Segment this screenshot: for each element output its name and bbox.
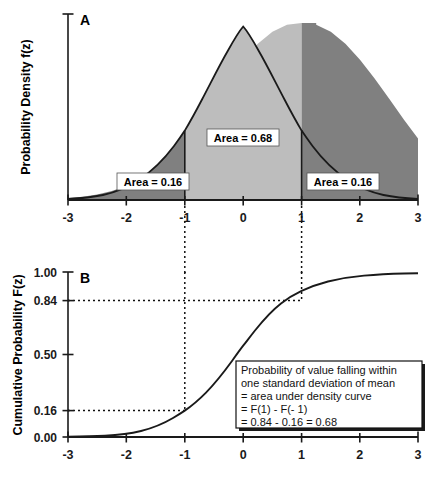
panel-b-xtick-4: 1 (298, 448, 305, 462)
explanation-line-2: one standard deviation of mean (241, 377, 395, 389)
panel-a-xtick-0: -3 (62, 211, 73, 225)
area-label-center: Area = 0.68 (207, 129, 279, 146)
panel-b-xtick-5: 2 (356, 448, 363, 462)
panel-b-ytick-016: 0.16 (34, 404, 58, 418)
panel-b-xtick-2: -1 (179, 448, 190, 462)
panel-a-xtick-1: -2 (121, 211, 132, 225)
panel-a-letter: A (80, 12, 90, 28)
panel-b-ytick-050: 0.50 (34, 348, 58, 362)
area-label-right-text: Area = 0.16 (314, 176, 372, 188)
area-label-right: Area = 0.16 (307, 173, 379, 190)
panel-a-xtick-6: 3 (415, 211, 422, 225)
panel-b: 1.00 0.84 0.50 0.16 0.00 -3 -2 -1 0 1 2 … (11, 266, 425, 463)
panel-a-y-axis-title: Probability Density f(z) (19, 39, 33, 174)
panel-b-xtick-0: -3 (62, 448, 73, 462)
explanation-box: Probability of value falling within one … (236, 361, 425, 431)
area-label-center-text: Area = 0.68 (214, 132, 272, 144)
panel-b-ytick-084: 0.84 (34, 294, 58, 308)
explanation-line-3: = area under density curve (241, 390, 372, 402)
area-label-left-text: Area = 0.16 (124, 176, 182, 188)
panel-a-xtick-5: 2 (356, 211, 363, 225)
panel-b-ytick-100: 1.00 (34, 266, 58, 280)
area-label-left: Area = 0.16 (117, 173, 189, 190)
panel-b-xtick-3: 0 (240, 448, 247, 462)
explanation-line-1: Probability of value falling within (241, 364, 397, 376)
panel-b-xtick-1: -2 (121, 448, 132, 462)
panel-b-ytick-000: 0.00 (34, 431, 58, 445)
statistics-figure: -3 -2 -1 0 1 2 3 Probability Density f(z… (0, 0, 447, 484)
panel-b-y-axis-title: Cumulative Probability F(z) (11, 274, 25, 435)
panel-a-xtick-3: 0 (240, 211, 247, 225)
panel-b-letter: B (80, 270, 90, 286)
explanation-line-4: = F(1) - F(- 1) (241, 403, 307, 415)
explanation-line-5: = 0.84 - 0.16 = 0.68 (241, 416, 337, 428)
panel-b-xtick-6: 3 (415, 448, 422, 462)
